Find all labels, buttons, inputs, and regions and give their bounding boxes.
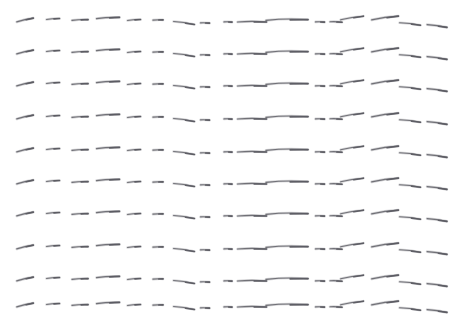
vector-field-canvas — [0, 0, 457, 326]
quiver-plot-figure: Vector field quiver plot of short grey l… — [0, 0, 457, 326]
